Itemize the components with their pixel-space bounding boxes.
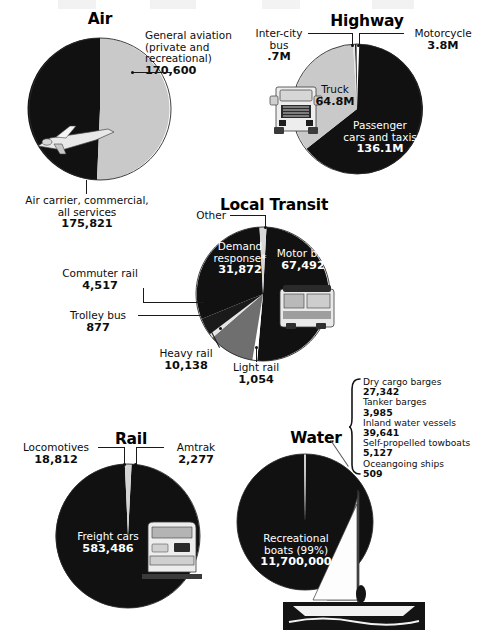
leader-dot-trolley-bus <box>203 314 206 317</box>
infographic-canvas: Air General aviation (private and recrea… <box>0 0 489 640</box>
leader-line-air-carrier <box>86 180 87 194</box>
leader-dot-light-rail <box>255 346 258 349</box>
label-light-rail: Light rail 1,054 <box>222 362 290 385</box>
label-motorcycle: Motorcycle 3.8M <box>404 28 482 51</box>
label-air-carrier: Air carrier, commercial, all services 17… <box>6 195 168 230</box>
breakout-item: Oceangoing ships 509 <box>363 459 489 479</box>
label-general-aviation: General aviation (private and recreation… <box>145 30 245 76</box>
leader-line-commuter-rail-drop <box>143 288 144 303</box>
section-title-water: Water <box>282 429 350 447</box>
leader-dot-commuter-rail <box>204 301 207 304</box>
label-truck: Truck 64.8M <box>306 84 364 107</box>
breakout-item: Tanker barges 3,985 <box>363 397 489 417</box>
leader-line-locomotives <box>98 447 125 448</box>
leader-line-general-aviation <box>133 72 172 73</box>
leader-line-other <box>230 215 266 216</box>
leader-line-locomotives-drop <box>124 447 125 464</box>
leader-dot-heavy-rail <box>219 327 222 330</box>
leader-line-commuter-rail <box>143 302 206 303</box>
label-heavy-rail: Heavy rail 10,138 <box>148 348 224 371</box>
section-title-air: Air <box>62 10 138 28</box>
leader-dot-other <box>264 226 267 229</box>
section-title-highway: Highway <box>322 12 412 30</box>
leader-dot-intercity-bus <box>351 44 354 47</box>
label-trolley-bus: Trolley bus 877 <box>58 310 138 333</box>
breakout-item: Inland water vessels 39,641 <box>363 418 489 438</box>
section-title-rail: Rail <box>102 430 160 448</box>
label-amtrak: Amtrak 2,277 <box>164 442 228 465</box>
label-recreational-boats: Recreational boats (99%) 11,700,000 <box>246 533 346 568</box>
page-crop-artifact <box>0 0 489 9</box>
label-intercity-bus: Inter-city bus .7M <box>248 28 310 63</box>
leader-line-light-rail <box>256 348 257 362</box>
label-locomotives: Locomotives 18,812 <box>14 442 98 465</box>
leader-dot-locomotives <box>123 463 126 466</box>
label-commuter-rail: Commuter rail 4,517 <box>56 268 144 291</box>
leader-line-trolley-bus <box>138 315 204 316</box>
leader-line-amtrak-drop <box>136 447 137 464</box>
water-breakout-list: Dry cargo barges 27,342 Tanker barges 3,… <box>363 377 489 479</box>
breakout-item: Dry cargo barges 27,342 <box>363 377 489 397</box>
brace-icon <box>348 378 362 476</box>
section-title-local-transit: Local Transit <box>218 196 330 214</box>
leader-line-amtrak <box>136 447 164 448</box>
label-freight-cars: Freight cars 583,486 <box>62 531 154 554</box>
leader-line-intercity-bus <box>308 33 353 34</box>
label-passenger-cars: Passenger cars and taxis 136.1M <box>336 120 424 155</box>
breakout-item: Self-propelled towboats 5,127 <box>363 438 489 458</box>
city-bus-illustration <box>280 285 334 329</box>
leader-dot-motorcycle <box>357 44 360 47</box>
label-other: Other <box>182 210 226 222</box>
leader-dot-amtrak <box>134 463 137 466</box>
label-demand-response: Demand response* 31,872 <box>202 241 278 276</box>
leader-line-motorcycle <box>359 33 404 34</box>
leader-dot-general-aviation <box>131 71 134 74</box>
label-motor-bus: Motor bus 67,492 <box>268 248 338 271</box>
